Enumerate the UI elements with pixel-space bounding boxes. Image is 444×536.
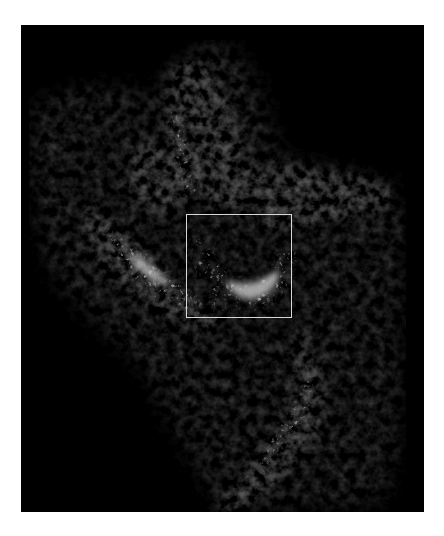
roi-label: Region of interest bbox=[187, 215, 188, 216]
region-of-interest-box[interactable]: Region of interest bbox=[186, 214, 292, 318]
image-frame: Region of interest bbox=[21, 25, 424, 512]
page: Region of interest bbox=[0, 0, 444, 536]
